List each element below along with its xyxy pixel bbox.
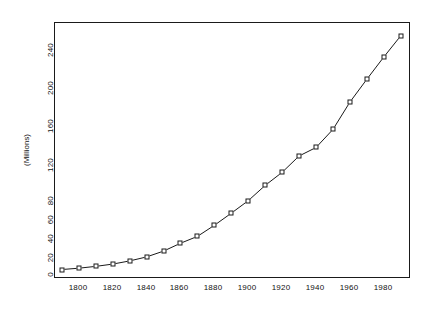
data-point-marker bbox=[93, 264, 98, 269]
chart-figure: (Millions) 020406080120160200240 1800182… bbox=[0, 0, 429, 309]
data-point-marker bbox=[364, 77, 369, 82]
data-point-marker bbox=[110, 262, 115, 267]
series-line-population bbox=[55, 23, 411, 279]
data-point-marker bbox=[347, 100, 352, 105]
data-point-marker bbox=[178, 241, 183, 246]
data-point-marker bbox=[331, 127, 336, 132]
data-point-marker bbox=[127, 258, 132, 263]
x-axis-tick-label: 1860 bbox=[170, 283, 189, 292]
x-axis-tick-label: 1880 bbox=[204, 283, 223, 292]
plot-area bbox=[55, 23, 409, 277]
x-axis-tick-label: 1920 bbox=[272, 283, 291, 292]
x-axis-tick-label: 1980 bbox=[374, 283, 393, 292]
data-point-marker bbox=[398, 33, 403, 38]
data-point-marker bbox=[195, 234, 200, 239]
x-axis-tick-label: 1960 bbox=[340, 283, 359, 292]
y-axis-title: (Millions) bbox=[22, 134, 31, 166]
data-point-marker bbox=[297, 153, 302, 158]
x-axis-tick-label: 1940 bbox=[306, 283, 325, 292]
x-axis-tick-label: 1800 bbox=[69, 283, 88, 292]
data-point-marker bbox=[314, 145, 319, 150]
data-point-marker bbox=[263, 183, 268, 188]
data-point-marker bbox=[246, 198, 251, 203]
x-axis-tick-label: 1820 bbox=[103, 283, 122, 292]
data-point-marker bbox=[229, 211, 234, 216]
data-point-marker bbox=[76, 266, 81, 271]
data-point-marker bbox=[161, 249, 166, 254]
data-point-marker bbox=[59, 267, 64, 272]
data-point-marker bbox=[212, 223, 217, 228]
x-axis-tick-label: 1900 bbox=[238, 283, 257, 292]
x-axis-tick-label: 1840 bbox=[137, 283, 156, 292]
plot-frame bbox=[54, 22, 410, 278]
data-point-marker bbox=[144, 254, 149, 259]
data-point-marker bbox=[381, 54, 386, 59]
data-point-marker bbox=[280, 170, 285, 175]
